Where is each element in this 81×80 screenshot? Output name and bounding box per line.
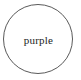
diagram-canvas: purple (0, 0, 81, 80)
circle-label: purple (0, 0, 77, 80)
